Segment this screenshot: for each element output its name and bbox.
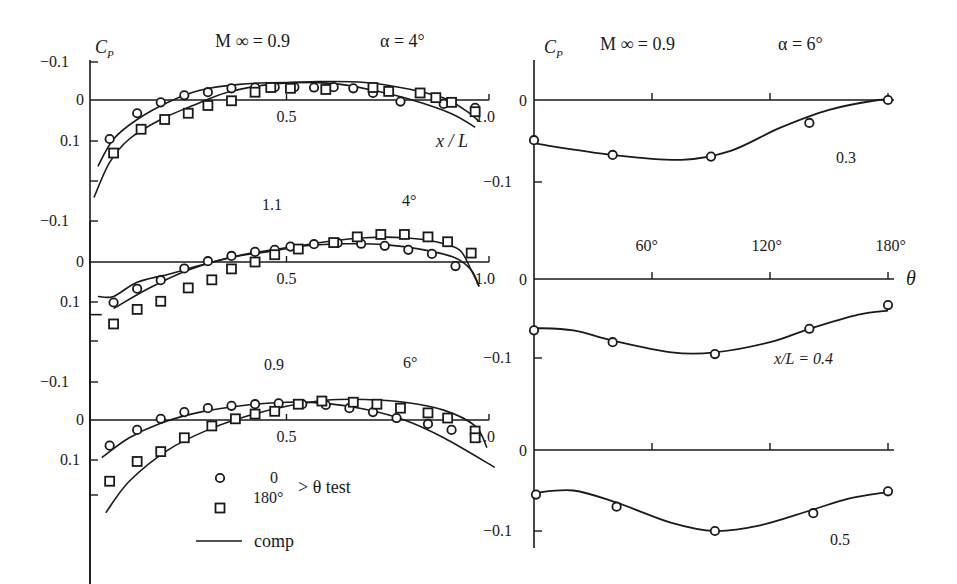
square-marker	[447, 98, 456, 107]
square-marker	[160, 115, 169, 124]
circle-marker	[227, 84, 235, 92]
square-marker	[294, 400, 303, 409]
square-marker	[443, 414, 452, 423]
circle-marker	[608, 151, 616, 159]
circle-marker	[805, 325, 813, 333]
circle-marker	[133, 109, 141, 117]
circle-marker	[204, 404, 212, 412]
ytick-label-neg: −0.1	[40, 373, 69, 390]
cp-subscript: P	[556, 48, 563, 60]
square-marker	[329, 238, 338, 247]
ytick-label-zero: 0	[519, 271, 527, 288]
right2-station-label: x/L = 0.4	[774, 351, 833, 367]
square-marker	[286, 84, 295, 93]
comp-curve-theta0	[102, 402, 495, 467]
circle-marker	[396, 97, 404, 105]
legend	[196, 474, 242, 541]
legend-comp-label: comp	[254, 532, 294, 550]
square-marker	[207, 275, 216, 284]
circle-marker	[805, 119, 813, 127]
circle-marker	[157, 415, 165, 423]
circle-marker	[251, 400, 259, 408]
square-marker	[180, 433, 189, 442]
square-marker	[251, 258, 260, 267]
xtick-label-0.5: 0.5	[277, 428, 297, 445]
circle-marker	[711, 527, 719, 535]
right-cp-axis-label: CP	[544, 38, 563, 60]
figure-canvas: −0.100.10.51.0 −0.100.10.51.0 −0.100.10.…	[0, 0, 957, 584]
square-marker	[105, 477, 114, 486]
ytick-label-neg: −0.1	[483, 349, 512, 366]
circle-marker	[447, 426, 455, 434]
ytick-label-pos: 0.1	[60, 132, 80, 149]
left-alpha-label: α = 4°	[380, 32, 425, 50]
square-marker	[372, 400, 381, 409]
circle-marker	[133, 285, 141, 293]
circle-marker	[180, 408, 188, 416]
square-marker	[203, 101, 212, 110]
legend-brace-label: > θ test	[298, 478, 351, 496]
right-alpha-label: α = 6°	[778, 35, 823, 53]
circle-marker	[424, 420, 432, 428]
circle-marker	[180, 91, 188, 99]
left-cp-axis-label: CP	[95, 38, 114, 60]
left3-mach-label: 0.9	[264, 357, 284, 373]
right-mach-label: M ∞ = 0.9	[600, 35, 675, 53]
square-marker	[294, 245, 303, 254]
circle-marker	[530, 136, 538, 144]
square-marker	[396, 404, 405, 413]
comp-curve	[534, 311, 888, 354]
square-marker	[156, 447, 165, 456]
legend-circle-icon	[216, 474, 224, 482]
circle-marker	[451, 262, 459, 270]
circle-marker	[530, 326, 538, 334]
left-mach-label: M ∞ = 0.9	[215, 32, 290, 50]
xtick-label-0.5: 0.5	[277, 108, 297, 125]
xtick-label-180: 180°	[876, 237, 906, 254]
square-marker	[353, 232, 362, 241]
ytick-label-pos: 0.1	[60, 293, 80, 310]
circle-marker	[180, 264, 188, 272]
circle-marker	[612, 503, 620, 511]
circle-marker	[381, 242, 389, 250]
circle-marker	[884, 96, 892, 104]
ytick-label-zero: 0	[76, 91, 84, 108]
comp-curve	[534, 490, 888, 531]
ytick-label-zero: 0	[519, 442, 527, 459]
ytick-label-zero: 0	[519, 92, 527, 109]
cp-subscript: P	[107, 48, 114, 60]
square-marker	[227, 264, 236, 273]
square-marker	[471, 107, 480, 116]
square-marker	[416, 88, 425, 97]
square-marker	[109, 149, 118, 158]
circle-marker	[105, 135, 113, 143]
circle-marker	[428, 250, 436, 258]
square-marker	[270, 407, 279, 416]
circle-marker	[310, 240, 318, 248]
square-marker	[270, 250, 279, 259]
legend-circle-label: 0	[270, 470, 278, 486]
square-marker	[251, 88, 260, 97]
circle-marker	[608, 338, 616, 346]
legend-square-label: 180°	[253, 490, 283, 506]
left2-mach-label: 1.1	[262, 197, 282, 213]
square-marker	[156, 297, 165, 306]
left3-alpha-label: 6°	[403, 355, 417, 371]
circle-marker	[884, 301, 892, 309]
square-marker	[467, 249, 476, 258]
right-xaxis-theta-label: θ	[906, 268, 916, 288]
square-marker	[376, 230, 385, 239]
square-marker	[251, 410, 260, 419]
square-marker	[423, 408, 432, 417]
xtick-label-120: 120°	[752, 237, 782, 254]
square-marker	[321, 85, 330, 94]
square-marker	[266, 83, 275, 92]
circle-marker	[227, 252, 235, 260]
circle-marker	[105, 441, 113, 449]
ytick-label-pos: 0.1	[60, 451, 80, 468]
square-marker	[137, 125, 146, 134]
ytick-label-zero: 0	[76, 253, 84, 270]
square-marker	[184, 109, 193, 118]
ytick-label-neg: −0.1	[40, 53, 69, 70]
left2-alpha-label: 4°	[402, 193, 416, 209]
